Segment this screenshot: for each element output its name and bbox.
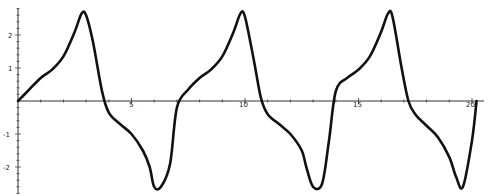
y-tick-label-m2: -2 [3,164,10,172]
x-tick-label-15: 15 [353,101,362,109]
x-tick-label-20: 20 [466,101,475,109]
line-chart: 5 10 15 20 2 1 -1 -2 [0,0,490,196]
y-tick-label-m1: -1 [3,131,10,139]
x-tick-label-5: 5 [129,101,133,109]
y-tick-label-1: 1 [8,65,12,73]
y-tick-label-2: 2 [8,32,12,40]
x-tick-label-10: 10 [239,101,248,109]
